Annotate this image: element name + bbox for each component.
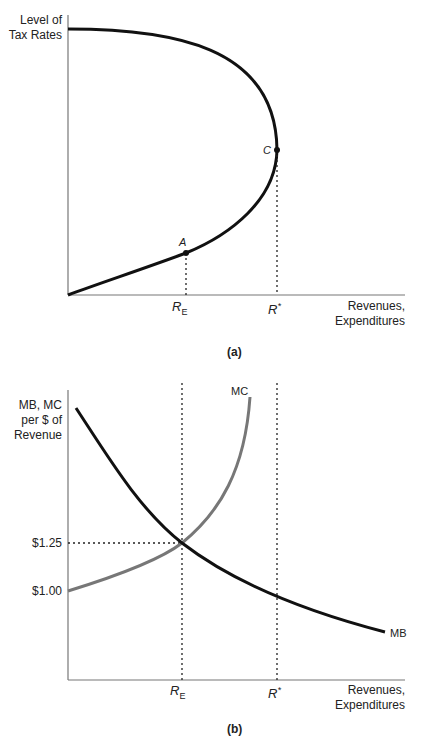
ylabel-line: Tax Rates: [0, 28, 62, 43]
chart-canvas: [0, 0, 423, 741]
tick-rstar-a: R*: [268, 299, 281, 317]
xlabel-line: Revenues,: [320, 683, 405, 698]
tick-re-a: RE: [172, 299, 187, 320]
tick-re-b: RE: [170, 683, 185, 704]
panel-a-axes: [68, 15, 405, 295]
mc-curve: [68, 397, 250, 591]
point-c-marker: [274, 147, 280, 153]
mb-curve: [76, 408, 385, 632]
mc-label: MC: [231, 384, 248, 399]
xlabel-line: Expenditures: [320, 314, 405, 329]
panel-b-xlabel: Revenues, Expenditures: [320, 683, 405, 713]
ylabel-line: per $ of: [0, 413, 62, 428]
ylabel-line: Revenue: [0, 428, 62, 443]
tick-re-sub: E: [181, 307, 187, 317]
panel-a-caption: (a): [227, 345, 242, 359]
ylabel-line: MB, MC: [0, 398, 62, 413]
point-a-marker: [183, 250, 189, 256]
tick-rstar-text: R: [268, 302, 277, 317]
panel-a-xlabel: Revenues, Expenditures: [320, 299, 405, 329]
tick-rstar-text: R: [268, 686, 277, 701]
laffer-curve: [68, 29, 277, 295]
point-c-label: C: [263, 143, 271, 158]
panel-b-ylabel: MB, MC per $ of Revenue: [0, 398, 62, 443]
ytick-100: $1.00: [0, 584, 62, 599]
panel-b-axes: [68, 390, 405, 680]
panel-b-caption: (b): [227, 722, 242, 736]
xlabel-line: Expenditures: [320, 698, 405, 713]
tick-re-text: R: [172, 299, 181, 314]
panel-a-ylabel: Level of Tax Rates: [0, 13, 62, 43]
ylabel-line: Level of: [0, 13, 62, 28]
tick-rstar-b: R*: [268, 683, 281, 701]
tick-rstar-sup: *: [277, 685, 281, 695]
ytick-125: $1.25: [0, 536, 62, 551]
xlabel-line: Revenues,: [320, 299, 405, 314]
tick-rstar-sup: *: [277, 301, 281, 311]
tick-re-text: R: [170, 683, 179, 698]
point-a-label: A: [179, 235, 186, 250]
tick-re-sub: E: [179, 691, 185, 701]
mb-label: MB: [390, 626, 407, 641]
